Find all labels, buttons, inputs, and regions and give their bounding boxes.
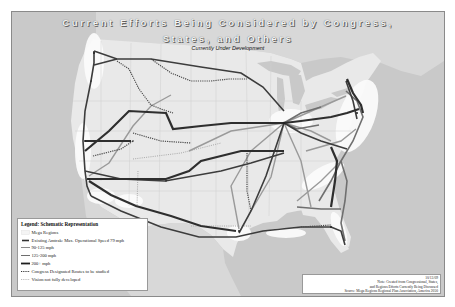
note-source: Source: Mega Regions Regional Plan Assoc…: [305, 289, 438, 293]
map-title-line-2: States, and Others: [12, 33, 444, 44]
map-title-block: Current Efforts Being Considered by Cong…: [12, 12, 444, 51]
legend-label: Congress Designated Routes to be studied: [32, 269, 109, 274]
legend-label: 200+ mph: [32, 261, 51, 266]
thick-dark-line-icon: [21, 238, 30, 243]
thick-black-line-icon: [21, 261, 30, 266]
legend-label: 90-125 mph: [32, 245, 54, 250]
mid-line-icon: [21, 253, 30, 258]
map-title-line-1: Current Efforts Being Considered by Cong…: [12, 17, 444, 28]
source-note-box: 10/13/09 Note: Created from Congressiona…: [302, 274, 441, 294]
legend-label: Vision not fully developed: [32, 277, 81, 282]
legend-item-existing-amtrak: Existing Amtrak: Max. Operational Speed …: [21, 236, 144, 244]
legend-item-congress-routes: Congress Designated Routes to be studied: [21, 267, 144, 275]
legend-item-vision: Vision not fully developed: [21, 275, 144, 283]
legend-label: Existing Amtrak: Max. Operational Speed …: [32, 238, 125, 243]
light-line-icon: [21, 245, 30, 250]
map-legend: Legend: Schematic Representation Mega Re…: [17, 218, 148, 291]
legend-item-125-200-mph: 125-200 mph: [21, 252, 144, 260]
mega-region-swatch-icon: [21, 230, 30, 235]
legend-item-90-125-mph: 90-125 mph: [21, 244, 144, 252]
dark-dotted-line-icon: [21, 269, 30, 274]
legend-label: 125-200 mph: [32, 253, 57, 258]
light-dotted-line-icon: [21, 277, 30, 282]
map-subtitle: Currently Under Development: [12, 45, 444, 51]
legend-item-200-plus-mph: 200+ mph: [21, 260, 144, 268]
legend-label: Mega Regions: [32, 230, 59, 235]
map-frame: Current Efforts Being Considered by Cong…: [11, 11, 445, 297]
legend-title: Legend: Schematic Representation: [21, 221, 144, 227]
legend-item-mega-regions: Mega Regions: [21, 229, 144, 237]
